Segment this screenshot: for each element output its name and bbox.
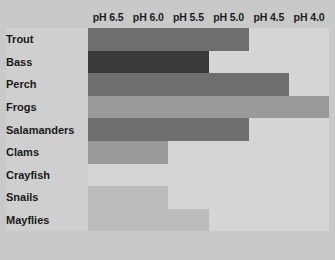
- row-label: Clams: [6, 141, 88, 164]
- heatmap-cell: [249, 51, 289, 74]
- heatmap-cell: [88, 141, 128, 164]
- heatmap-cell: [289, 28, 329, 51]
- row-label: Mayflies: [6, 209, 88, 232]
- heatmap-cell: [128, 209, 168, 232]
- heatmap-cell: [128, 164, 168, 187]
- heatmap-row: Mayflies: [6, 209, 329, 232]
- heatmap-cell: [168, 73, 208, 96]
- heatmap-row: Bass: [6, 51, 329, 74]
- heatmap-cell: [168, 28, 208, 51]
- heatmap-body: TroutBassPerchFrogsSalamandersClamsCrayf…: [6, 28, 329, 231]
- heatmap-cell: [249, 96, 289, 119]
- heatmap-row: Frogs: [6, 96, 329, 119]
- heatmap-cell: [209, 96, 249, 119]
- heatmap-cell: [289, 186, 329, 209]
- heatmap-row: Crayfish: [6, 164, 329, 187]
- heatmap-cell: [128, 51, 168, 74]
- column-header: pH 6.5: [88, 6, 128, 28]
- heatmap-cell: [209, 118, 249, 141]
- heatmap-cell: [168, 51, 208, 74]
- heatmap-cell: [88, 51, 128, 74]
- column-header: pH 4.0: [289, 6, 329, 28]
- heatmap-cell: [289, 118, 329, 141]
- heatmap-cell: [88, 73, 128, 96]
- heatmap-cell: [128, 28, 168, 51]
- heatmap-cell: [289, 73, 329, 96]
- row-label: Frogs: [6, 96, 88, 119]
- column-header: pH 4.5: [249, 6, 289, 28]
- heatmap-cell: [209, 28, 249, 51]
- heatmap-cell: [88, 209, 128, 232]
- heatmap-cell: [209, 51, 249, 74]
- heatmap-cell: [249, 118, 289, 141]
- heatmap-cell: [168, 164, 208, 187]
- heatmap-cell: [88, 164, 128, 187]
- column-header: pH 5.5: [168, 6, 208, 28]
- heatmap-cell: [289, 209, 329, 232]
- row-label: Snails: [6, 186, 88, 209]
- row-label: Trout: [6, 28, 88, 51]
- row-label: Perch: [6, 73, 88, 96]
- heatmap-cell: [168, 141, 208, 164]
- heatmap-cell: [128, 186, 168, 209]
- heatmap-row: Salamanders: [6, 118, 329, 141]
- column-header: pH 5.0: [209, 6, 249, 28]
- heatmap-cell: [128, 96, 168, 119]
- heatmap-cell: [209, 141, 249, 164]
- heatmap-header: pH 6.5pH 6.0pH 5.5pH 5.0pH 4.5pH 4.0: [6, 6, 329, 28]
- heatmap-chart: pH 6.5pH 6.0pH 5.5pH 5.0pH 4.5pH 4.0 Tro…: [0, 0, 335, 260]
- heatmap-cell: [209, 164, 249, 187]
- row-label: Crayfish: [6, 164, 88, 187]
- heatmap-row: Trout: [6, 28, 329, 51]
- heatmap-row: Perch: [6, 73, 329, 96]
- row-label: Salamanders: [6, 118, 88, 141]
- heatmap-cell: [88, 186, 128, 209]
- heatmap-cell: [128, 118, 168, 141]
- heatmap-cell: [249, 28, 289, 51]
- heatmap-cell: [88, 118, 128, 141]
- heatmap-cell: [209, 209, 249, 232]
- heatmap-cell: [289, 51, 329, 74]
- heatmap-cell: [128, 73, 168, 96]
- heatmap-cell: [249, 186, 289, 209]
- heatmap-cell: [249, 73, 289, 96]
- heatmap-cell: [289, 164, 329, 187]
- heatmap-cell: [249, 209, 289, 232]
- heatmap-cell: [168, 186, 208, 209]
- heatmap-cell: [88, 28, 128, 51]
- heatmap-cell: [128, 141, 168, 164]
- heatmap-matrix: pH 6.5pH 6.0pH 5.5pH 5.0pH 4.5pH 4.0 Tro…: [6, 6, 329, 231]
- heatmap-cell: [209, 73, 249, 96]
- heatmap-cell: [249, 141, 289, 164]
- heatmap-cell: [168, 96, 208, 119]
- heatmap-cell: [88, 96, 128, 119]
- corner-cell: [6, 6, 88, 28]
- heatmap-cell: [289, 96, 329, 119]
- heatmap-row: Snails: [6, 186, 329, 209]
- heatmap-cell: [168, 209, 208, 232]
- heatmap-cell: [289, 141, 329, 164]
- heatmap-cell: [249, 164, 289, 187]
- column-header: pH 6.0: [128, 6, 168, 28]
- header-row: pH 6.5pH 6.0pH 5.5pH 5.0pH 4.5pH 4.0: [6, 6, 329, 28]
- heatmap-row: Clams: [6, 141, 329, 164]
- heatmap-cell: [209, 186, 249, 209]
- heatmap-cell: [168, 118, 208, 141]
- row-label: Bass: [6, 51, 88, 74]
